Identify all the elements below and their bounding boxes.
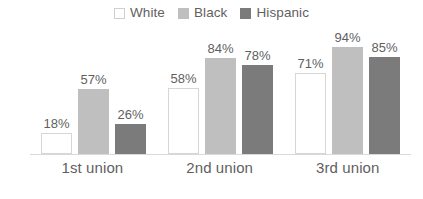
category-label: 3rd union bbox=[316, 160, 379, 175]
legend-swatch-icon bbox=[240, 8, 251, 19]
bar-rect[interactable] bbox=[242, 65, 273, 154]
legend-swatch-icon bbox=[114, 8, 125, 19]
bar-hispanic[interactable]: 78% bbox=[242, 24, 273, 154]
bar-black[interactable]: 57% bbox=[78, 24, 109, 154]
category-axis: 1st union2nd union3rd union bbox=[30, 160, 411, 175]
bar-hispanic[interactable]: 85% bbox=[369, 24, 400, 154]
bar-rect[interactable] bbox=[369, 57, 400, 154]
bar-value-label: 78% bbox=[244, 49, 270, 62]
bar-groups: 18%57%26%58%84%78%71%94%85% bbox=[30, 24, 411, 154]
bar-value-label: 84% bbox=[207, 42, 233, 55]
legend-item-label: White bbox=[130, 6, 165, 20]
bar-rect[interactable] bbox=[332, 47, 363, 154]
bar-value-label: 26% bbox=[117, 108, 143, 121]
bar-value-label: 18% bbox=[43, 117, 69, 130]
bar-value-label: 71% bbox=[297, 57, 323, 70]
bar-rect[interactable] bbox=[205, 58, 236, 154]
plot-area: 18%57%26%58%84%78%71%94%85% bbox=[0, 24, 423, 155]
bar-black[interactable]: 84% bbox=[205, 24, 236, 154]
legend-item-black[interactable]: Black bbox=[178, 6, 228, 20]
bar-rect[interactable] bbox=[168, 88, 199, 154]
legend-item-label: Black bbox=[194, 6, 228, 20]
bar-rect[interactable] bbox=[115, 124, 146, 154]
bar-white[interactable]: 18% bbox=[41, 24, 72, 154]
bar-chart: WhiteBlackHispanic 18%57%26%58%84%78%71%… bbox=[0, 0, 423, 199]
bar-value-label: 57% bbox=[80, 73, 106, 86]
legend-item-hispanic[interactable]: Hispanic bbox=[240, 6, 309, 20]
category-label: 2nd union bbox=[186, 160, 253, 175]
bar-rect[interactable] bbox=[295, 73, 326, 154]
legend-item-label: Hispanic bbox=[256, 6, 309, 20]
bar-group: 58%84%78% bbox=[168, 24, 273, 154]
bar-hispanic[interactable]: 26% bbox=[115, 24, 146, 154]
bar-value-label: 85% bbox=[371, 41, 397, 54]
bar-black[interactable]: 94% bbox=[332, 24, 363, 154]
bar-group: 71%94%85% bbox=[295, 24, 400, 154]
bar-value-label: 94% bbox=[334, 31, 360, 44]
legend-item-white[interactable]: White bbox=[114, 6, 165, 20]
category-label: 1st union bbox=[61, 160, 123, 175]
bar-rect[interactable] bbox=[41, 133, 72, 154]
bar-value-label: 58% bbox=[170, 72, 196, 85]
chart-legend: WhiteBlackHispanic bbox=[0, 4, 423, 22]
bar-group: 18%57%26% bbox=[41, 24, 146, 154]
bar-white[interactable]: 71% bbox=[295, 24, 326, 154]
legend-swatch-icon bbox=[178, 8, 189, 19]
bar-rect[interactable] bbox=[78, 89, 109, 154]
bar-white[interactable]: 58% bbox=[168, 24, 199, 154]
axis-baseline bbox=[30, 154, 411, 155]
